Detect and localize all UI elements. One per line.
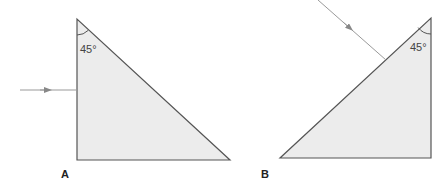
prism-a-triangle — [77, 19, 230, 160]
prism-a-angle-label: 45° — [80, 43, 97, 55]
prism-diagram: 45° A 45° B — [0, 0, 448, 185]
prism-b: 45° B — [261, 0, 431, 180]
prism-b-label: B — [261, 168, 269, 180]
prism-b-ray-arrow-icon — [343, 22, 350, 28]
prism-a: 45° A — [20, 19, 230, 180]
prism-b-triangle — [280, 18, 431, 158]
prism-a-label: A — [61, 168, 69, 180]
prism-b-ray — [318, 0, 386, 60]
prism-b-angle-label: 45° — [410, 41, 427, 53]
